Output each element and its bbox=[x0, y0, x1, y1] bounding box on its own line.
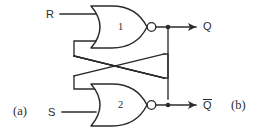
circuit-schematic bbox=[0, 0, 269, 128]
wire-x-diagonal-down bbox=[74, 56, 164, 78]
output-label-q: Q bbox=[203, 21, 212, 32]
inversion-bubble-icon-1 bbox=[147, 23, 156, 32]
figure-canvas: R S Q Q 1 2 (a) (b) bbox=[0, 0, 269, 128]
wire-x-diagonal-up bbox=[74, 54, 164, 76]
wire-qbar-feedback-to-gate1 bbox=[164, 54, 168, 99]
gate-2-number: 2 bbox=[118, 100, 123, 111]
figure-label-b: (b) bbox=[231, 99, 246, 112]
input-label-s: S bbox=[48, 107, 56, 118]
inversion-bubble-icon-2 bbox=[147, 101, 156, 110]
figure-label-a: (a) bbox=[13, 105, 27, 118]
gate-2-group[interactable] bbox=[91, 84, 156, 126]
gate-1-number: 1 bbox=[118, 22, 123, 33]
input-label-r: R bbox=[46, 9, 54, 20]
output-label-qbar-text: Q bbox=[203, 99, 212, 112]
output-label-qbar: Q bbox=[203, 99, 212, 112]
junction-dot-icon-qbar bbox=[166, 103, 171, 108]
gate-1-group[interactable] bbox=[91, 6, 156, 48]
